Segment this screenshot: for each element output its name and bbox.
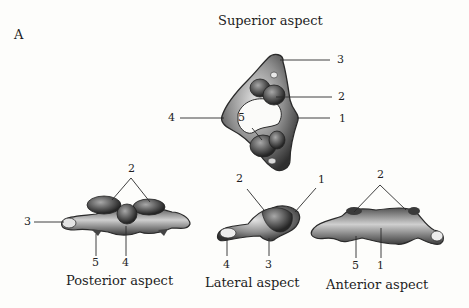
vertebra-illustrations [0,0,469,308]
superior-view-bone [221,55,298,171]
superior-label-4: 4 [168,112,175,123]
lateral-view-bone [217,206,299,241]
posterior-label-4: 4 [122,257,129,268]
lateral-label-3: 3 [265,259,272,270]
superior-label-3: 3 [337,54,344,65]
lateral-label-2: 2 [236,173,243,184]
posterior-label-2: 2 [128,163,135,174]
superior-label-2: 2 [338,91,345,102]
anterior-label-1: 1 [377,260,384,271]
anterior-label-2: 2 [377,169,384,180]
posterior-label-5: 5 [92,257,99,268]
anterior-label-5: 5 [352,260,359,271]
lateral-label-4: 4 [223,259,230,270]
superior-label-5: 5 [238,112,245,123]
superior-label-1: 1 [339,113,346,124]
lateral-label-1: 1 [318,174,325,185]
anterior-view-bone [311,207,443,244]
posterior-label-3: 3 [24,216,31,227]
